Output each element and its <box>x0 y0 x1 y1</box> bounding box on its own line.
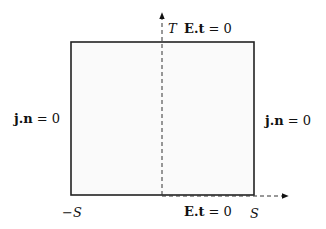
bottom-bc-bold: E.t <box>184 204 204 219</box>
diagram-canvas: T E.t = 0 j.n = 0 j.n = 0 −S E.t = 0 S <box>0 0 326 229</box>
right-boundary-condition: j.n = 0 <box>264 113 311 128</box>
left-boundary-condition: j.n = 0 <box>13 111 60 126</box>
left-bc-rest: = 0 <box>33 111 60 126</box>
right-bc-bold: j.n <box>264 113 284 128</box>
top-bc-bold: E.t <box>184 21 204 36</box>
x-max-label: S <box>250 206 259 221</box>
x-min-label: −S <box>62 205 82 220</box>
right-bc-rest: = 0 <box>284 113 311 128</box>
top-bc-rest: = 0 <box>204 21 231 36</box>
left-bc-bold: j.n <box>13 111 33 126</box>
bottom-boundary-condition: E.t = 0 <box>184 204 232 219</box>
bottom-bc-rest: = 0 <box>204 204 231 219</box>
t-max-label: T <box>168 21 178 36</box>
top-boundary-condition: E.t = 0 <box>184 21 232 36</box>
